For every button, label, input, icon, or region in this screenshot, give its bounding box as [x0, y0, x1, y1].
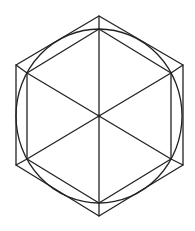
corner-connector-1: [16, 65, 27, 73]
corner-connector-4: [171, 159, 183, 165]
corner-connector-3: [16, 159, 27, 165]
hexagon-construction-diagram: [0, 0, 195, 231]
diagram-canvas: [0, 0, 195, 231]
center-point: [98, 115, 101, 118]
corner-connector-2: [171, 65, 183, 73]
